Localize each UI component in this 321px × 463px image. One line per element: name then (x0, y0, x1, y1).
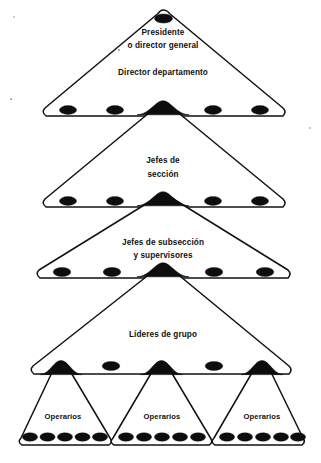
node-operario-2-5 (190, 433, 205, 441)
node-level2-2 (106, 106, 123, 115)
node-operario-3-1 (219, 433, 234, 441)
node-operario-3-2 (237, 433, 252, 441)
label-operarios-1: Operarios (45, 412, 82, 421)
node-operario-3-4 (273, 433, 288, 441)
node-operario-2-2 (136, 433, 151, 441)
label-level-1-line2: o director general (128, 41, 199, 50)
node-level4-4 (205, 268, 223, 277)
node-level3-1 (59, 197, 76, 206)
triangle-level-1-outline (43, 10, 285, 116)
scan-speck-4 (13, 16, 15, 18)
node-operario-1-4 (75, 433, 90, 441)
node-operario-1-1 (22, 433, 37, 441)
triangle-level-4-outline (31, 264, 291, 374)
triangle-level-1: Presidente o director general Director d… (43, 10, 285, 116)
label-level-4-line2: y supervisores (133, 251, 193, 260)
node-level2-5 (251, 106, 268, 115)
label-level-5-line1: Líderes de grupo (129, 330, 197, 339)
diagram-canvas: Presidente o director general Director d… (0, 0, 321, 463)
triangle-level-4: Líderes de grupo (31, 263, 291, 374)
node-level5-2 (102, 362, 120, 371)
node-level4-1 (53, 268, 71, 277)
node-operario-2-1 (118, 433, 133, 441)
node-operario-1-5 (92, 433, 107, 441)
node-level5-4 (205, 362, 223, 371)
node-president (155, 14, 173, 23)
node-operario-2-3 (154, 433, 169, 441)
label-level-3-line2: sección (147, 170, 178, 179)
node-level3-2 (106, 197, 123, 206)
node-operario-3-5 (290, 433, 305, 441)
scan-speck-3 (309, 127, 311, 129)
label-operarios-3: Operarios (244, 412, 281, 421)
organizational-pyramid-diagram: Presidente o director general Director d… (0, 0, 321, 463)
label-level-2-line1: Director departamento (118, 68, 208, 77)
label-level-4-line1: Jefes de subsección (122, 238, 204, 247)
node-level2-4 (204, 106, 221, 115)
node-operario-3-3 (255, 433, 270, 441)
node-level4-5 (256, 268, 274, 277)
label-operarios-2: Operarios (144, 412, 181, 421)
scan-speck-1 (10, 98, 12, 100)
node-level3-5 (251, 197, 268, 206)
label-level-3-line1: Jefes de (146, 156, 180, 165)
node-operario-1-3 (57, 433, 72, 441)
label-level-1-line1: Presidente (142, 28, 185, 37)
node-operario-1-2 (40, 433, 55, 441)
node-level2-1 (59, 106, 76, 115)
scan-speck-2 (118, 49, 120, 51)
triangle-level-2-outline (43, 102, 285, 207)
node-operario-2-4 (172, 433, 187, 441)
node-level4-2 (103, 268, 121, 277)
node-level3-4 (204, 197, 221, 206)
